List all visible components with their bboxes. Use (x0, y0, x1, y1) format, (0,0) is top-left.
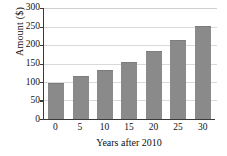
x-tick-label: 20 (144, 122, 164, 132)
y-tick-label: 50 (14, 97, 40, 107)
y-tick-label: 100 (14, 78, 40, 88)
x-tick-label: 15 (119, 122, 139, 132)
plot-area (43, 8, 215, 120)
y-tick-label: 300 (14, 3, 40, 13)
bar-0 (48, 83, 64, 119)
y-tick-label: 200 (14, 41, 40, 51)
y-tick-label: 0 (14, 115, 40, 125)
x-axis-title: Years after 2010 (43, 137, 215, 148)
y-tick-label: 250 (14, 22, 40, 32)
bar-10 (97, 70, 113, 119)
bar-20 (146, 51, 162, 119)
bar-chart: Amount ($) 300 250 200 150 100 50 0 (0, 0, 227, 156)
bar-series (44, 8, 215, 119)
bar-30 (195, 26, 211, 119)
y-axis-tick-labels: 300 250 200 150 100 50 0 (14, 8, 40, 120)
y-tickmark (40, 119, 44, 120)
bar-5 (73, 76, 89, 119)
x-tick-label: 0 (45, 122, 65, 132)
bar-25 (170, 40, 186, 119)
x-tick-label: 30 (193, 122, 213, 132)
x-tick-label: 25 (168, 122, 188, 132)
x-tick-label: 10 (94, 122, 114, 132)
y-tick-label: 150 (14, 59, 40, 69)
x-tick-label: 5 (70, 122, 90, 132)
bar-15 (121, 62, 137, 119)
x-axis-tick-labels: 0 5 10 15 20 25 30 (43, 122, 215, 136)
